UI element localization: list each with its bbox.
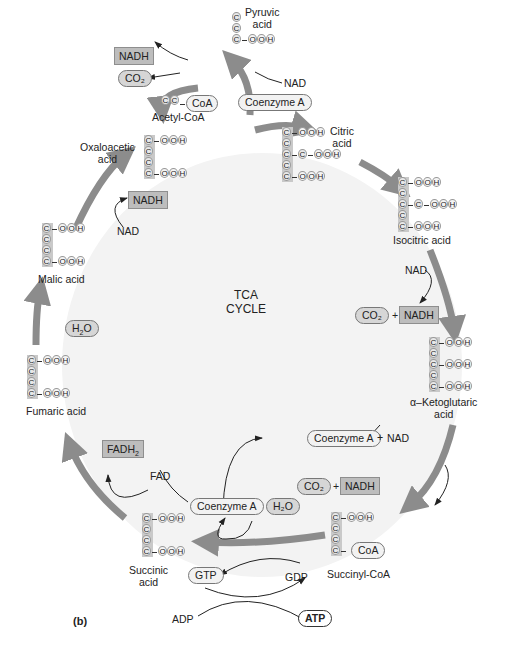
acetyl-coa-label: Acetyl-CoA (152, 111, 205, 123)
malic-acid-label: Malic acid (38, 273, 85, 285)
fumaric-acid-formula: COOH C C COOH (27, 355, 70, 399)
coenzyme-a-oval-top: Coenzyme A (238, 94, 312, 111)
coenzyme-a-oval-succinyl: Coenzyme A (190, 498, 264, 515)
plus-isocitrate: + (392, 309, 398, 321)
oxaloacetic-acid-label: Oxaloaceticacid (80, 141, 135, 165)
fad-label: FAD (150, 470, 170, 482)
oxaloacetic-acid-formula: COOH C C COOH (144, 135, 187, 179)
isocitric-acid-formula: COOH C CCOOH C COOH (398, 177, 457, 232)
h2o-oval-fumarate: H2O (65, 320, 99, 337)
co2-oval-isocitrate: CO₂ (355, 307, 389, 324)
plus-ketoglutarate-1: + (377, 431, 383, 443)
nad-label-isocitrate: NAD (405, 264, 427, 276)
gtp-oval: GTP (188, 567, 224, 584)
co2-oval-top: CO₂ (118, 70, 152, 87)
co2-oval-ketoglutarate: CO₂ (297, 478, 331, 495)
coa-oval-succinyl: CoA (351, 542, 385, 559)
tca-cycle-title: TCACYCLE (226, 288, 266, 316)
nad-label-ketoglutarate: NAD (387, 432, 409, 444)
succinic-acid-formula: COOH C C COOH (142, 513, 185, 557)
nadh-box-top: NADH (114, 47, 154, 65)
ketoglutaric-acid-formula: COOH C COOH C COOH (429, 337, 472, 392)
nad-label-top: NAD (284, 77, 306, 89)
nadh-box-isocitrate: NADH (399, 306, 439, 324)
isocitric-acid-label: Isocitric acid (393, 234, 451, 246)
malic-acid-formula: COOH C C COOH (42, 223, 85, 267)
succinyl-coa-label: Succinyl-CoA (327, 568, 390, 580)
gdp-label: GDP (285, 571, 308, 583)
citric-acid-label: Citricacid (330, 125, 354, 149)
plus-ketoglutarate-2: + (333, 480, 339, 492)
pyruvic-acid-label: Pyruvicacid (245, 6, 279, 30)
h2o-oval-succinyl: H₂O (266, 498, 300, 515)
fadh2-box: FADH2 (102, 440, 144, 458)
atp-oval: ATP (298, 610, 332, 627)
fumaric-acid-label: Fumaric acid (26, 405, 86, 417)
acetyl-coa-formula: CCCoA (161, 95, 218, 112)
nadh-box-ketoglutarate: NADH (340, 477, 380, 495)
nad-label-malate: NAD (117, 225, 139, 237)
nadh-box-malate: NADH (128, 191, 168, 209)
ketoglutaric-acid-label: α–Ketoglutaricacid (410, 396, 477, 420)
figure-label: (b) (73, 615, 87, 627)
adp-label: ADP (172, 613, 194, 625)
succinic-acid-label: Succinicacid (129, 564, 168, 588)
coenzyme-a-oval-ketoglutarate: Coenzyme A (307, 430, 381, 447)
